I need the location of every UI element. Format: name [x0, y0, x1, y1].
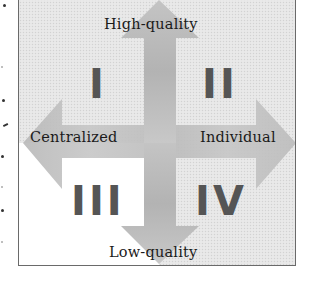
axis-label-individual: Individual [200, 129, 276, 145]
margin-dot [3, 4, 6, 7]
margin-dot [1, 155, 4, 158]
quadrant-numeral-II: II [202, 64, 238, 104]
quadrant-numeral-I: I [89, 64, 107, 104]
axis-label-centralized: Centralized [30, 129, 117, 145]
quadrant-numeral-III: III [71, 181, 125, 221]
margin-dot [1, 209, 4, 212]
quadrant-numeral-IV: IV [195, 181, 247, 221]
margin-dot [2, 99, 5, 102]
margin-dot [1, 241, 3, 243]
axis-label-high-quality: High-quality [104, 16, 198, 32]
margin-dash [3, 123, 8, 126]
margin-dot [1, 186, 3, 188]
margin-marks [0, 0, 14, 302]
quadrant-diagram: High-quality Low-quality Centralized Ind… [18, 0, 296, 266]
margin-dot [1, 66, 3, 68]
axis-label-low-quality: Low-quality [109, 244, 197, 260]
